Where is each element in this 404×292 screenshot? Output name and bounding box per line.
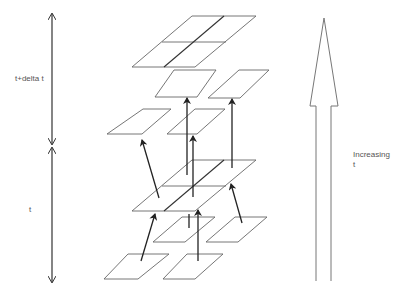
top-grid [132, 16, 256, 67]
increasing-t-arrow-icon [310, 18, 338, 281]
lower-span-label: t [29, 205, 31, 215]
cell-mid-left [155, 70, 216, 97]
arrow-a [142, 140, 159, 198]
upper-cells [107, 70, 269, 134]
cell-inner-left [153, 217, 215, 242]
upper-span-label: t+delta t [15, 74, 44, 84]
cell-inner-right [206, 217, 267, 242]
increasing-label: Increasing [353, 150, 390, 160]
cell-bottom-right [163, 254, 223, 279]
lower-cells [104, 217, 267, 279]
cell-mid-right [208, 70, 269, 98]
cell-bottom-left [104, 254, 169, 279]
cell-low-left [107, 109, 171, 134]
increasing-label-t: t [353, 160, 355, 170]
time-refinement-diagram [0, 0, 404, 292]
cell-low-center [167, 109, 225, 134]
